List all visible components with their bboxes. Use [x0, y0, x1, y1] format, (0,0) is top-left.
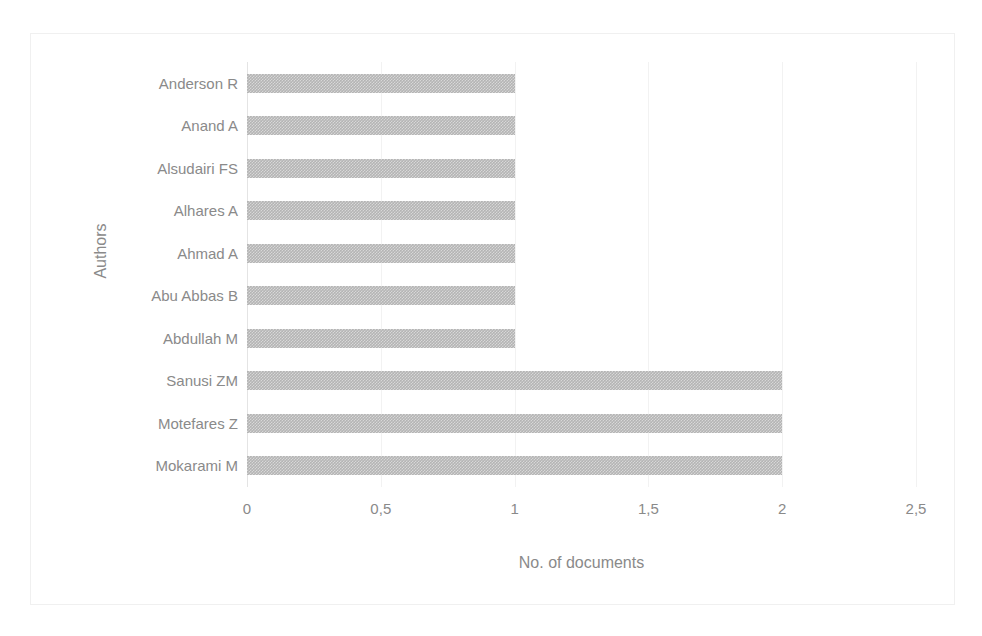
- gridline-5: [916, 62, 917, 487]
- category-label: Motefares Z: [158, 416, 238, 431]
- bar-row: Alsudairi FS: [247, 147, 916, 190]
- bar-row: Motefares Z: [247, 402, 916, 445]
- bar: [247, 244, 515, 263]
- bar: [247, 116, 515, 135]
- plot-area: 00,511,522,5Anderson RAnand AAlsudairi F…: [247, 62, 916, 487]
- bar: [247, 201, 515, 220]
- category-label: Ahmad A: [177, 246, 238, 261]
- bar: [247, 74, 515, 93]
- category-label: Mokarami M: [155, 458, 238, 473]
- category-label: Anand A: [181, 118, 238, 133]
- category-label: Alsudairi FS: [157, 161, 238, 176]
- bar-row: Sanusi ZM: [247, 360, 916, 403]
- chart-frame: 00,511,522,5Anderson RAnand AAlsudairi F…: [30, 33, 955, 605]
- x-axis-title: No. of documents: [247, 554, 916, 572]
- category-label: Abdullah M: [163, 331, 238, 346]
- category-label: Alhares A: [174, 203, 238, 218]
- bar-row: Anderson R: [247, 62, 916, 105]
- bar: [247, 329, 515, 348]
- bar: [247, 286, 515, 305]
- category-label: Sanusi ZM: [166, 373, 238, 388]
- x-tick-label: 1,5: [638, 501, 659, 516]
- bar-row: Alhares A: [247, 190, 916, 233]
- x-tick-label: 2,5: [906, 501, 927, 516]
- x-tick-label: 0: [243, 501, 251, 516]
- bar: [247, 414, 782, 433]
- bar-row: Mokarami M: [247, 445, 916, 488]
- bar-row: Anand A: [247, 105, 916, 148]
- bar: [247, 456, 782, 475]
- bar-row: Abdullah M: [247, 317, 916, 360]
- y-axis-title: Authors: [92, 223, 110, 278]
- category-label: Abu Abbas B: [151, 288, 238, 303]
- bar: [247, 371, 782, 390]
- x-tick-label: 1: [510, 501, 518, 516]
- x-tick-label: 2: [778, 501, 786, 516]
- bar-row: Abu Abbas B: [247, 275, 916, 318]
- category-label: Anderson R: [159, 76, 238, 91]
- x-tick-label: 0,5: [370, 501, 391, 516]
- bar-row: Ahmad A: [247, 232, 916, 275]
- bar: [247, 159, 515, 178]
